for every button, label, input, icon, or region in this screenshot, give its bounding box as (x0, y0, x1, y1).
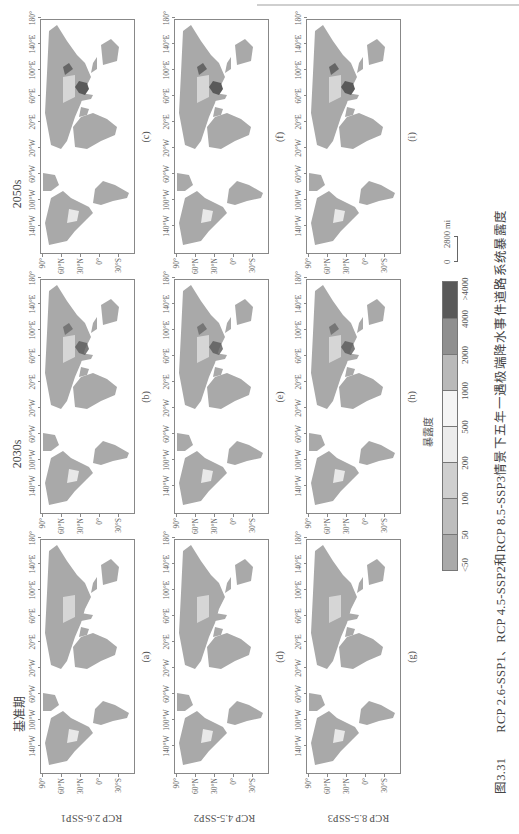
tick-mark (304, 667, 307, 668)
longitude-tick-label: 60°W (28, 425, 37, 443)
legend-label: 50 (460, 531, 470, 540)
legend-swatch (443, 426, 457, 462)
tick-mark (38, 615, 41, 616)
legend-tick-labels: <5050100200500100020004000>4000 (458, 281, 472, 571)
longitude-tick-label: 60°W (28, 165, 37, 183)
tick-mark (304, 745, 307, 746)
panel-letter: (f) (274, 132, 285, 142)
longitude-tick-label: 100°W (28, 709, 37, 730)
longitude-tick-label: 140°W (162, 215, 171, 236)
map-panel-a: 140°W100°W60°W20°W20°E60°E100°E140°E180°… (40, 539, 135, 774)
longitude-tick-label: 180° (28, 271, 37, 285)
longitude-tick-label: 140°W (294, 475, 303, 496)
latitude-tick-label: 30°S (248, 258, 257, 284)
tick-mark (172, 745, 175, 746)
longitude-tick-label: 100°W (162, 189, 171, 210)
tick-mark (304, 381, 307, 382)
map-panel-c: 140°W100°W60°W20°W20°E60°E100°E140°E180°… (40, 19, 135, 254)
tick-mark (99, 514, 100, 517)
panel-letter: (h) (406, 391, 417, 403)
map-frame (174, 279, 269, 514)
longitude-tick-label: 140°W (28, 475, 37, 496)
panel-letter: (b) (140, 391, 151, 403)
caption-number: 图3.31 (494, 758, 508, 794)
longitude-tick-label: 140°E (28, 555, 37, 574)
legend-label: <50 (460, 558, 470, 572)
latitude-tick-label: 30°N (342, 518, 351, 544)
tick-mark (172, 43, 175, 44)
longitude-tick-label: 60°E (294, 88, 303, 103)
tick-mark (304, 615, 307, 616)
longitude-tick-label: 100°W (294, 189, 303, 210)
tick-mark (172, 69, 175, 70)
legend-title: 暴露度 (420, 417, 435, 447)
tick-mark (304, 433, 307, 434)
map-panel-d: 140°W100°W60°W20°W20°E60°E100°E140°E180°… (174, 539, 269, 774)
latitude-tick-label: 30°S (114, 518, 123, 544)
map-frame (174, 19, 269, 254)
tick-mark (172, 355, 175, 356)
longitude-tick-label: 60°W (162, 165, 171, 183)
longitude-tick-label: 180° (28, 531, 37, 545)
latitude-tick-label: 60°N (323, 258, 332, 284)
longitude-tick-label: 60°W (162, 685, 171, 703)
legend-label: 200 (460, 456, 470, 470)
row-label-rcp26-ssp1: RCP 2.6-SSP1 (32, 813, 152, 824)
tick-mark (172, 329, 175, 330)
tick-mark (233, 774, 234, 777)
tick-mark (304, 95, 307, 96)
longitude-tick-label: 180° (162, 271, 171, 285)
latitude-tick-label: 0° (95, 258, 104, 284)
tick-mark (176, 254, 177, 257)
tick-mark (214, 514, 215, 517)
legend-swatch (443, 498, 457, 534)
latitude-tick-label: 90° (38, 778, 47, 804)
tick-mark (38, 69, 41, 70)
tick-mark (384, 774, 385, 777)
tick-mark (80, 254, 81, 257)
longitude-tick-label: 140°E (162, 555, 171, 574)
tick-mark (38, 303, 41, 304)
tick-mark (304, 69, 307, 70)
longitude-tick-label: 100°E (28, 321, 37, 340)
tick-mark (252, 254, 253, 257)
longitude-tick-label: 100°E (162, 321, 171, 340)
longitude-tick-label: 20°E (28, 374, 37, 389)
panel-letter: (i) (406, 132, 417, 141)
longitude-tick-label: 100°W (162, 449, 171, 470)
tick-mark (42, 774, 43, 777)
map-panel-e: 140°W100°W60°W20°W20°E60°E100°E140°E180°… (174, 279, 269, 514)
tick-mark (304, 17, 307, 18)
longitude-tick-label: 20°E (294, 374, 303, 389)
tick-mark (172, 17, 175, 18)
tick-mark (308, 774, 309, 777)
longitude-tick-label: 60°W (28, 685, 37, 703)
tick-mark (172, 303, 175, 304)
tick-mark (38, 17, 41, 18)
latitude-tick-label: 90° (38, 518, 47, 544)
tick-mark (99, 254, 100, 257)
legend-swatch (443, 282, 457, 318)
tick-mark (38, 121, 41, 122)
longitude-tick-label: 140°W (162, 735, 171, 756)
longitude-tick-label: 20°E (162, 634, 171, 649)
latitude-tick-label: 30°S (114, 258, 123, 284)
tick-mark (195, 514, 196, 517)
tick-mark (308, 514, 309, 517)
tick-mark (252, 514, 253, 517)
legend-label: 1000 (460, 382, 470, 400)
longitude-tick-label: 20°W (162, 139, 171, 157)
tick-mark (172, 693, 175, 694)
tick-mark (172, 563, 175, 564)
longitude-tick-label: 100°W (162, 709, 171, 730)
tick-mark (38, 173, 41, 174)
map-frame (174, 539, 269, 774)
tick-mark (118, 774, 119, 777)
tick-mark (61, 514, 62, 517)
tick-mark (99, 774, 100, 777)
latitude-tick-label: 60°N (57, 258, 66, 284)
tick-mark (176, 514, 177, 517)
tick-mark (38, 719, 41, 720)
longitude-tick-label: 60°E (294, 608, 303, 623)
longitude-tick-label: 20°W (162, 399, 171, 417)
